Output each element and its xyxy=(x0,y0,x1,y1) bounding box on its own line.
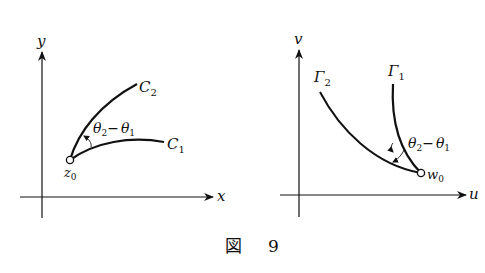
label-c1: C1 xyxy=(167,135,185,155)
angle-label-left: θ2−θ1 xyxy=(93,120,135,138)
w-plane-panel: u v Γ2 Γ1 θ2−θ1 w0 xyxy=(280,30,479,217)
x-axis-label: x xyxy=(217,187,226,205)
label-c2: C2 xyxy=(139,78,157,98)
curve-gamma2 xyxy=(320,92,421,173)
label-w0: w0 xyxy=(427,167,444,184)
label-gamma1: Γ1 xyxy=(387,62,405,82)
figure-9: x y C2 C1 θ2−θ1 z0 u v Γ2 Γ1 xyxy=(0,0,485,273)
point-w0 xyxy=(417,169,424,176)
v-axis-label: v xyxy=(294,30,303,48)
angle-arc xyxy=(84,136,91,147)
caption-number: 9 xyxy=(268,236,279,256)
figure-caption: 図 9 xyxy=(225,236,279,256)
angle-label-right: θ2−θ1 xyxy=(408,135,450,153)
label-gamma2: Γ2 xyxy=(313,68,331,88)
angle-tick xyxy=(391,143,393,152)
curve-c1 xyxy=(70,140,164,160)
y-axis-label: y xyxy=(36,32,46,50)
label-z0: z0 xyxy=(63,165,77,182)
u-axis-label: u xyxy=(469,185,479,203)
z-plane-panel: x y C2 C1 θ2−θ1 z0 xyxy=(20,32,226,218)
point-z0 xyxy=(66,156,73,163)
caption-kanji: 図 xyxy=(225,236,242,256)
angle-arc xyxy=(393,150,404,162)
